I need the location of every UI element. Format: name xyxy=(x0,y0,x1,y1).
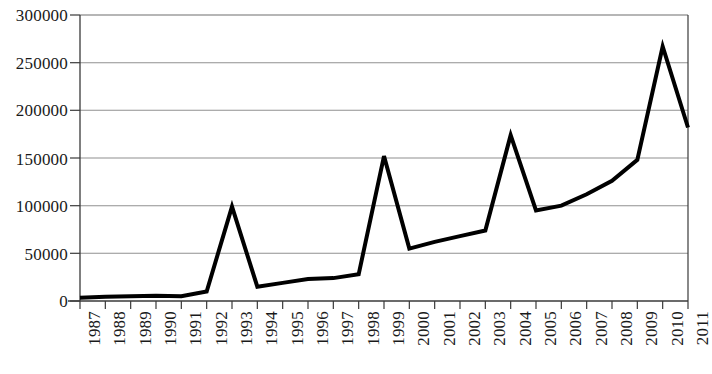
x-axis-tick-label: 2010 xyxy=(669,311,686,371)
x-axis-tick-label: 1999 xyxy=(390,311,407,371)
x-axis-tick-label: 1993 xyxy=(238,311,255,371)
x-axis-tick-label: 1991 xyxy=(187,311,204,371)
x-axis-tick-label: 1997 xyxy=(339,311,356,371)
x-axis-tick-label: 1994 xyxy=(263,311,280,371)
x-axis-tick-label: 2004 xyxy=(517,311,534,371)
x-axis-tick-label: 2011 xyxy=(694,311,711,371)
x-axis-tick-label: 1987 xyxy=(86,311,103,371)
x-axis-tick-label: 1989 xyxy=(137,311,154,371)
x-axis-tick-label: 1990 xyxy=(162,311,179,371)
x-axis-tick-label: 2003 xyxy=(491,311,508,371)
x-axis-tick-label: 2005 xyxy=(542,311,559,371)
x-axis-tick-label: 2008 xyxy=(618,311,635,371)
x-axis-tick-label: 2007 xyxy=(593,311,610,371)
x-axis-tick-label: 1998 xyxy=(365,311,382,371)
x-axis-tick-label: 1996 xyxy=(314,311,331,371)
x-axis-tick-label: 2001 xyxy=(441,311,458,371)
x-axis-tick-label: 2006 xyxy=(567,311,584,371)
x-axis-tick-label: 1988 xyxy=(111,311,128,371)
x-axis-tick-label: 1995 xyxy=(289,311,306,371)
x-axis-tick-label: 2000 xyxy=(415,311,432,371)
x-axis-tick-label: 1992 xyxy=(213,311,230,371)
x-axis-tick-label: 2009 xyxy=(643,311,660,371)
x-axis-tick-label: 2002 xyxy=(466,311,483,371)
